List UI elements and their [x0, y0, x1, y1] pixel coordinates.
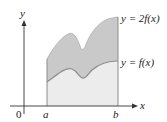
lower-curve-label: y = f(x) [120, 56, 154, 69]
tick-a-label: a [43, 108, 49, 120]
x-axis-label: x [139, 99, 145, 111]
tick-b-label: b [113, 108, 119, 120]
area-diagram: y x 0 a b y = 2f(x) y = f(x) [0, 0, 167, 122]
origin-label: 0 [16, 108, 22, 120]
x-axis-arrow-icon [132, 104, 138, 109]
y-axis-label: y [19, 7, 25, 19]
y-axis-arrow-icon [22, 20, 27, 26]
upper-curve-label: y = 2f(x) [120, 12, 160, 25]
